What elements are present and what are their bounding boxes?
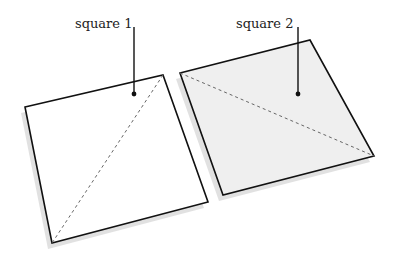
square-1-dot bbox=[132, 92, 137, 97]
square-1-label: square 1 bbox=[75, 16, 132, 31]
square-2-dot bbox=[296, 92, 301, 97]
diagram-canvas bbox=[0, 0, 396, 264]
square-2-label: square 2 bbox=[236, 16, 293, 31]
square-1 bbox=[25, 75, 208, 243]
